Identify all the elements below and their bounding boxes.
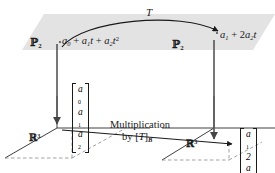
label-polynomial-image: a1 + 2a2t bbox=[220, 30, 256, 41]
coordinate-vector-left: a0 a1 a2 bbox=[72, 83, 89, 153]
left-floor-dashed-edges bbox=[5, 128, 126, 158]
point-marker-right bbox=[216, 32, 218, 34]
vector-entry: a0 bbox=[78, 84, 83, 107]
vector-entry: a1 bbox=[246, 129, 251, 152]
label-space-r3-left: ℝ3 bbox=[29, 133, 40, 143]
point-marker-left bbox=[59, 41, 61, 43]
label-transformation-T: T bbox=[146, 7, 152, 18]
label-space-r3-right: ℝ3 bbox=[186, 139, 197, 149]
label-domain-p2-right: ℙ2 bbox=[172, 39, 184, 52]
right-floor-axes bbox=[162, 96, 275, 160]
bracket-left-close bbox=[85, 83, 89, 153]
label-multiplication-caption: Multiplication bbox=[110, 120, 170, 131]
vector-entry: a1 bbox=[78, 107, 83, 130]
diagram-canvas: ℙ2 ℙ2 T a0 + a1t + a2t2 a1 + 2a2t ℝ3 ℝ3 … bbox=[0, 0, 275, 173]
bracket-right-close bbox=[253, 128, 257, 173]
label-polynomial-source: a0 + a1t + a2t2 bbox=[62, 36, 119, 47]
label-domain-p2-left: ℙ2 bbox=[30, 37, 42, 50]
vector-entries-right: a1 2a2 0 bbox=[244, 128, 253, 173]
coordinate-vector-right: a1 2a2 0 bbox=[240, 128, 257, 173]
diagram-vector-graphics bbox=[0, 0, 275, 173]
vector-entry: 2a2 bbox=[246, 152, 251, 173]
label-by-matrix-caption: by [T]B bbox=[122, 132, 152, 143]
vector-entries-left: a0 a1 a2 bbox=[76, 83, 85, 153]
vector-entry: a2 bbox=[78, 129, 83, 152]
